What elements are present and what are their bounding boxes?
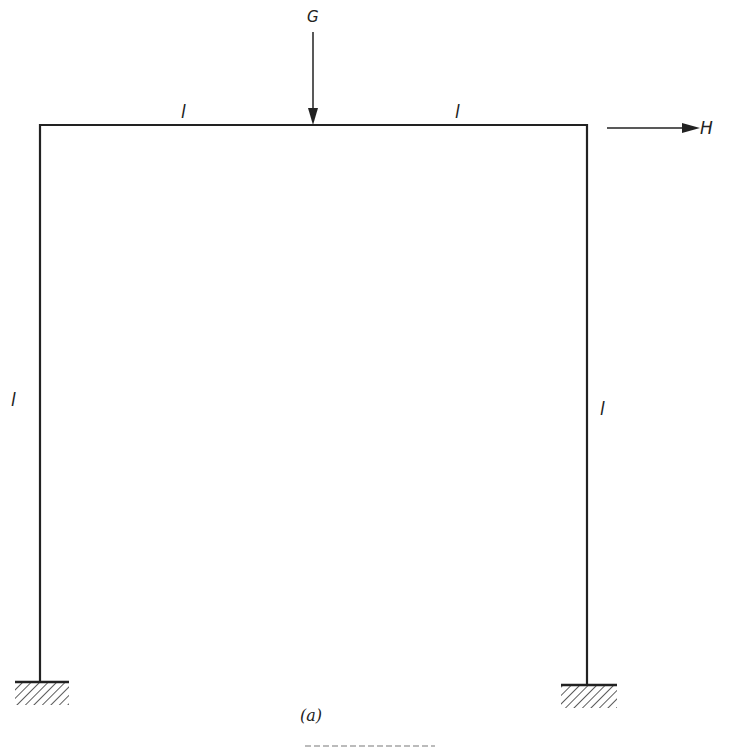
beam-left-length-label: l xyxy=(181,102,186,122)
right-fixed-support xyxy=(561,685,617,708)
load-g-arrow xyxy=(308,32,318,125)
left-fixed-support xyxy=(15,682,69,705)
load-h-arrow xyxy=(607,123,700,133)
beam-right-length-label: l xyxy=(455,102,460,122)
frame xyxy=(39,124,588,685)
right-column-length-label: l xyxy=(600,399,605,419)
arrowhead-right-icon xyxy=(682,123,700,133)
load-h-label: H xyxy=(700,118,713,138)
left-column-length-label: l xyxy=(11,390,16,410)
portal-frame-diagram: G H l l l l (a) xyxy=(0,0,747,748)
arrowhead-down-icon xyxy=(308,108,318,125)
figure-caption: (a) xyxy=(300,706,322,725)
load-g-label: G xyxy=(307,8,319,26)
